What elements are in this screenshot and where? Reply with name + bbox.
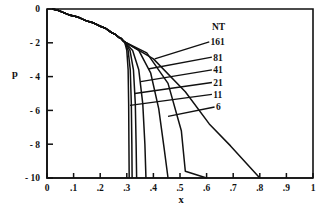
y-tick-label: - 6 [30, 106, 41, 116]
curve-11 [52, 9, 168, 178]
x-tick-label: 0 [45, 183, 50, 193]
x-tick-label: .1 [70, 183, 77, 193]
axis-ticks [47, 9, 313, 178]
y-axis-tick-labels: 0- 2- 4- 6- 8- 10 [25, 4, 40, 183]
plot-frame [47, 9, 313, 178]
x-tick-label: .4 [150, 183, 157, 193]
x-tick-label: .6 [203, 183, 210, 193]
x-axis-tick-labels: 0.1.2.3.4.5.6.7.8.91 [45, 183, 316, 193]
chart-screenshot: 0.1.2.3.4.5.6.7.8.91 0- 2- 4- 6- 8- 10 N… [0, 0, 321, 210]
y-tick-label: - 10 [25, 173, 40, 183]
legend-label-161: 161 [211, 37, 226, 47]
plot-axes-lines [47, 9, 313, 178]
x-tick-label: .5 [176, 183, 183, 193]
legend-label-21: 21 [213, 78, 223, 88]
curve-41 [52, 9, 136, 178]
x-axis-title: x [178, 194, 184, 205]
x-tick-label: .9 [283, 183, 290, 193]
legend-label-41: 41 [213, 65, 223, 75]
leader-line-161 [155, 42, 210, 59]
x-tick-label: .3 [123, 183, 130, 193]
legend-label-6: 6 [216, 102, 221, 112]
data-curves [52, 9, 259, 178]
y-tick-label: - 2 [30, 38, 41, 48]
legend-title: NT [212, 22, 226, 32]
y-tick-label: - 4 [30, 72, 41, 82]
plot-border [47, 9, 313, 178]
x-tick-label: .8 [256, 183, 263, 193]
legend-label-11: 11 [213, 90, 222, 100]
y-tick-label: 0 [35, 4, 40, 14]
curve-161 [52, 9, 129, 178]
y-axis-title: p [12, 68, 18, 79]
x-tick-label: .2 [97, 183, 104, 193]
x-tick-label: .7 [230, 183, 237, 193]
line-chart: 0.1.2.3.4.5.6.7.8.91 0- 2- 4- 6- 8- 10 N… [0, 0, 321, 210]
curve-81 [52, 9, 132, 178]
legend: NT161814121116 [211, 22, 226, 112]
x-tick-label: 1 [311, 183, 316, 193]
leader-line-21 [135, 83, 212, 94]
legend-label-81: 81 [213, 53, 223, 63]
y-tick-label: - 8 [30, 140, 41, 150]
